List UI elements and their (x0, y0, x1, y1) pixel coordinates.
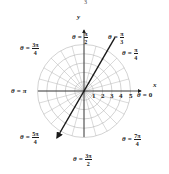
fraction: 7π4 (134, 133, 141, 147)
fraction: 3π2 (85, 153, 92, 167)
angle-label-zero: θ=0 (137, 92, 152, 99)
fraction: π4 (134, 47, 138, 61)
grid-radial (44, 68, 84, 91)
angle-label-pi-over-2: θ= π2 (72, 31, 88, 45)
x-tick-4: 4 (119, 93, 123, 100)
polar-grid-figure: 3 y x 1 2 3 4 5 θ= π2 θ= π3 θ= π4 θ= 3π4… (0, 0, 169, 174)
angle-label-5pi-over-4: θ= 5π4 (20, 131, 39, 145)
angle-label-pi-over-3: θ= π3 (108, 31, 124, 45)
fraction: π3 (120, 31, 124, 45)
angle-label-3pi-over-2: θ= 3π2 (73, 153, 92, 167)
grid-radial (51, 58, 84, 91)
x-tick-3: 3 (110, 93, 114, 100)
cropped-fraction-fragment: 3 (84, 0, 87, 5)
x-tick-2: 2 (101, 93, 105, 100)
y-axis-label: y (77, 14, 80, 21)
fraction: 5π4 (32, 131, 39, 145)
angle-label-pi-over-4: θ= π4 (122, 47, 138, 61)
grid-radial (61, 51, 84, 91)
angle-label-7pi-over-4: θ= 7π4 (122, 133, 141, 147)
fraction: 3π4 (32, 42, 39, 56)
x-axis-label: x (153, 82, 157, 89)
x-tick-1: 1 (92, 93, 96, 100)
fraction: π2 (84, 31, 88, 45)
x-tick-5: 5 (129, 93, 133, 100)
angle-label-3pi-over-4: θ= 3π4 (20, 42, 39, 56)
angle-label-pi: θ=π (11, 88, 26, 95)
